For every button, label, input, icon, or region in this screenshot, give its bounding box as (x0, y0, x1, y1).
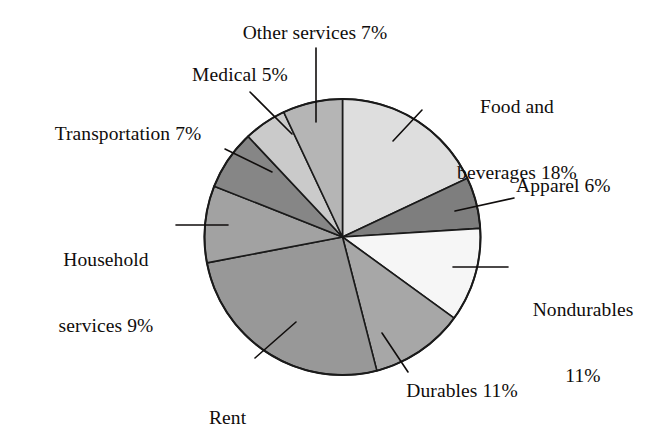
slice-label-medical: Medical 5% (175, 64, 305, 86)
slice-label-apparel: Apparel 6% (516, 175, 656, 197)
slice-label-household-services: Household services 9% (18, 205, 194, 381)
slice-label-transportation: Transportation 7% (28, 123, 228, 145)
slice-label-rent: Rent 26% (209, 363, 299, 429)
slice-label-nondurables: Nondurables 11% (508, 255, 658, 429)
pie-chart-figure: Other services 7% Food and beverages 18%… (0, 0, 665, 429)
slice-label-rent-line1: Rent (209, 407, 299, 429)
slice-label-nondurables-line1: Nondurables (508, 299, 658, 321)
slice-label-durables: Durables 11% (378, 380, 546, 402)
slice-label-household-services-line1: Household (18, 249, 194, 271)
slice-label-food-and-beverages-line1: Food and (428, 96, 606, 118)
slice-label-other-services: Other services 7% (220, 22, 410, 44)
slice-label-household-services-line2: services 9% (18, 315, 194, 337)
slice-label-food-and-beverages: Food and beverages 18% (428, 52, 606, 228)
